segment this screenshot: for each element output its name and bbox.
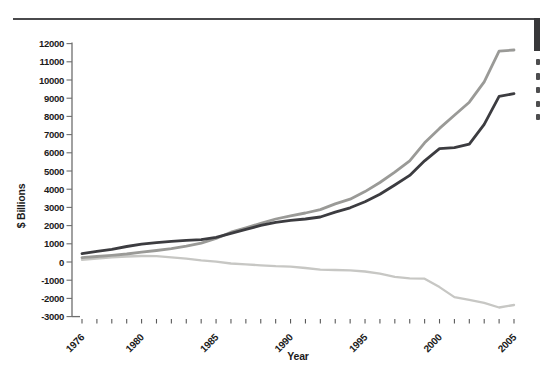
x-tick-label: 1995 bbox=[347, 331, 370, 354]
y-tick-label: 10000 bbox=[39, 75, 64, 86]
y-axis-title: $ Billions bbox=[15, 183, 27, 228]
series-medium-gray-line bbox=[82, 50, 514, 258]
x-axis-title: Year bbox=[287, 350, 309, 362]
y-tick-label: 0 bbox=[59, 257, 64, 268]
y-tick-label: 5000 bbox=[44, 166, 64, 177]
y-tick-label: 9000 bbox=[44, 93, 64, 104]
series-light-gray-line bbox=[82, 256, 514, 308]
x-tick-label: 2000 bbox=[421, 331, 444, 354]
y-tick-label: 11000 bbox=[40, 56, 64, 67]
x-tick-label: 1980 bbox=[123, 331, 146, 354]
page: 1200011000100009000800070006000500040003… bbox=[0, 0, 540, 378]
y-tick-label: 7000 bbox=[44, 129, 64, 140]
y-tick-label: 4000 bbox=[44, 184, 64, 195]
x-tick-label: 1976 bbox=[64, 331, 87, 354]
y-tick-label: 12000 bbox=[39, 38, 64, 49]
line-chart: 1200011000100009000800070006000500040003… bbox=[0, 0, 540, 378]
y-tick-label: 8000 bbox=[44, 111, 64, 122]
series-dark-gray-line bbox=[82, 94, 514, 254]
x-tick-label: 1985 bbox=[198, 331, 221, 354]
y-tick-label: 2000 bbox=[44, 220, 64, 231]
y-tick-label: 6000 bbox=[44, 147, 64, 158]
y-tick-label: -3000 bbox=[41, 311, 64, 322]
x-tick-label: 2005 bbox=[496, 331, 519, 354]
y-tick-label: 1000 bbox=[44, 238, 64, 249]
y-tick-label: -1000 bbox=[41, 275, 64, 286]
y-tick-label: -2000 bbox=[41, 293, 64, 304]
y-tick-label: 3000 bbox=[44, 202, 64, 213]
